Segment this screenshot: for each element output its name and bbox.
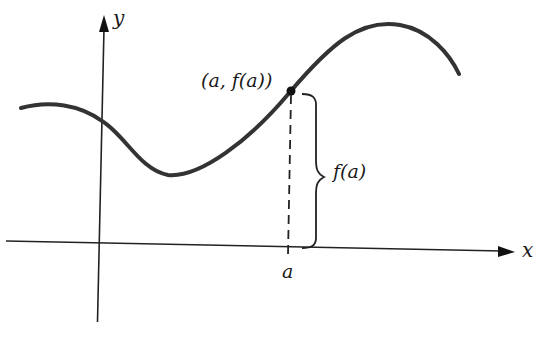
y-axis-arrow-icon [99, 15, 109, 32]
height-label: f(a) [333, 160, 366, 182]
point-label: (a, f(a)) [201, 69, 272, 91]
tick-label-a: a [282, 260, 293, 282]
point-a-fa [287, 87, 296, 96]
x-axis-arrow-icon [498, 246, 515, 257]
graph-svg [0, 0, 545, 338]
y-axis-label: y [113, 6, 124, 30]
x-axis-line [6, 241, 502, 251]
x-axis-label: x [522, 238, 533, 262]
y-axis-line [98, 28, 105, 322]
function-curve [21, 24, 459, 175]
dashed-vertical-line [288, 95, 291, 255]
function-graph-figure: y x (a, f(a)) f(a) a [0, 0, 545, 338]
brace-icon [302, 94, 324, 248]
